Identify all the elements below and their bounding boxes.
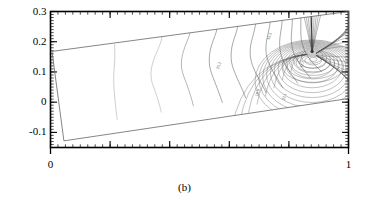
y-tick-label: 0.3: [0, 6, 47, 17]
y-tick-label: 0: [0, 96, 47, 107]
y-tick-label: -0.1: [0, 126, 47, 137]
svg-text:31.7: 31.7: [299, 60, 306, 69]
x-tick-label: 0: [31, 159, 71, 170]
axis-ticks: [51, 12, 349, 155]
domain-outline: [52, 12, 349, 141]
figure-contour-plot: 25.235.518.922.131.7 0.3 0.2 0.1 0 -0.1 …: [0, 0, 369, 210]
y-tick-label: 0.2: [0, 36, 47, 47]
svg-text:22.1: 22.1: [281, 92, 288, 101]
svg-text:18.9: 18.9: [254, 89, 261, 98]
svg-text:25.2: 25.2: [215, 61, 222, 70]
x-tick-label: 1: [329, 159, 369, 170]
plot-canvas: 25.235.518.922.131.7: [0, 0, 369, 210]
svg-text:35.5: 35.5: [266, 32, 273, 41]
y-tick-label: 0.1: [0, 66, 47, 77]
figure-caption: (b): [0, 181, 369, 193]
